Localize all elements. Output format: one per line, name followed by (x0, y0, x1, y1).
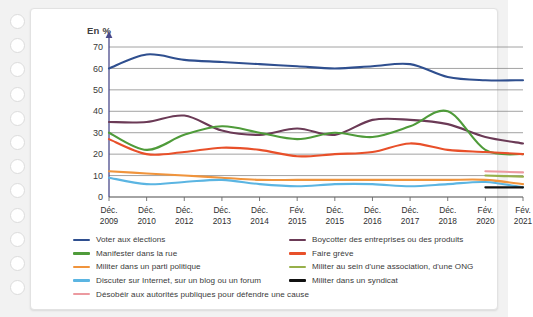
legend-column-left: Voter aux électionsManifester dans la ru… (73, 233, 288, 301)
legend-line-swatch (73, 279, 90, 282)
legend-item[interactable]: Militer dans un parti politique (73, 260, 288, 274)
x-axis-tick-label: Déc. (326, 205, 343, 215)
series-line (109, 115, 523, 143)
x-axis-tick-label: 2021 (514, 216, 533, 226)
x-axis-tick-label: 2017 (401, 216, 420, 226)
binder-hole-icon (10, 87, 25, 102)
y-axis-tick-label: 50 (93, 85, 103, 95)
legend-item[interactable]: Voter aux élections (73, 233, 288, 247)
x-axis-tick-label: 2014 (250, 216, 269, 226)
chart-card: En % 010203040506070Déc.2009Déc.2010Déc.… (30, 8, 498, 310)
legend-line-swatch (289, 239, 306, 242)
y-axis-tick-label: 40 (93, 106, 103, 116)
legend-line-swatch (289, 279, 306, 282)
legend-item[interactable]: Militer au sein d'une association, d'une… (289, 260, 529, 274)
x-axis-tick-label: 2015 (288, 216, 307, 226)
legend-item-label: Faire grève (312, 249, 354, 258)
legend-item-label: Militer dans un parti politique (96, 262, 201, 271)
legend-line-swatch (73, 252, 90, 255)
legend-item[interactable]: Boycotter des entreprises ou des produit… (289, 233, 529, 247)
binder-hole-icon (10, 208, 25, 223)
x-axis-tick-label: Fév. (515, 205, 531, 215)
series-line (485, 171, 523, 172)
x-axis-tick-label: 2012 (175, 216, 194, 226)
x-axis-tick-label: 2018 (438, 216, 457, 226)
x-axis-tick-label: 2010 (137, 216, 156, 226)
x-axis-tick-label: 2020 (476, 216, 495, 226)
series-line (109, 54, 523, 80)
y-axis-tick-label: 30 (93, 128, 103, 138)
legend-column-right: Boycotter des entreprises ou des produit… (289, 233, 529, 287)
x-axis-tick-label: Déc. (100, 205, 117, 215)
binder-hole-icon (10, 256, 25, 271)
legend-item[interactable]: Faire grève (289, 247, 529, 261)
binder-hole-icon (10, 111, 25, 126)
legend-item-label: Voter aux élections (96, 235, 165, 244)
y-axis-tick-label: 60 (93, 64, 103, 74)
legend-item-label: Militer au sein d'une association, d'une… (312, 262, 473, 271)
chart-legend: Voter aux électionsManifester dans la ru… (73, 233, 528, 309)
legend-line-swatch (289, 252, 306, 255)
x-axis-tick-label: Déc. (251, 205, 268, 215)
legend-item-label: Manifester dans la rue (96, 249, 177, 258)
binder-hole-icon (10, 38, 25, 53)
x-axis-tick-label: Déc. (138, 205, 155, 215)
x-axis-tick-label: 2015 (326, 216, 345, 226)
legend-item[interactable]: Désobéir aux autorités publiques pour dé… (73, 287, 288, 301)
binder-hole-icon (10, 280, 25, 295)
legend-item[interactable]: Militer dans un syndicat (289, 274, 529, 288)
x-axis-tick-label: Déc. (176, 205, 193, 215)
y-axis-tick-label: 0 (98, 192, 103, 202)
legend-item[interactable]: Manifester dans la rue (73, 247, 288, 261)
x-axis-tick-label: 2009 (100, 216, 119, 226)
binder-hole-icon (10, 232, 25, 247)
binder-hole-icon (10, 62, 25, 77)
x-axis-tick-label: Déc. (402, 205, 419, 215)
legend-line-swatch (289, 266, 306, 269)
y-axis-arrow-icon (106, 31, 113, 38)
legend-item-label: Désobéir aux autorités publiques pour dé… (96, 290, 309, 299)
legend-line-swatch (73, 266, 90, 269)
legend-line-swatch (73, 293, 90, 296)
legend-item-label: Boycotter des entreprises ou des produit… (312, 235, 463, 244)
binder-hole-icon (10, 159, 25, 174)
y-axis-tick-label: 70 (93, 42, 103, 52)
y-axis-tick-label: 20 (93, 149, 103, 159)
x-axis-tick-label: Déc. (364, 205, 381, 215)
x-axis-tick-label: Fév. (289, 205, 305, 215)
x-axis-tick-label: Déc. (213, 205, 230, 215)
x-axis-tick-label: 2013 (213, 216, 232, 226)
x-axis-tick-label: 2016 (363, 216, 382, 226)
binder-hole-icon (10, 135, 25, 150)
binder-hole-icon (10, 14, 25, 29)
legend-item-label: Militer dans un syndicat (312, 276, 398, 285)
line-chart: 010203040506070Déc.2009Déc.2010Déc.2012D… (71, 19, 533, 234)
x-axis-tick-label: Déc. (439, 205, 456, 215)
legend-line-swatch (73, 239, 90, 242)
binder-hole-icon (10, 183, 25, 198)
x-axis-tick-label: Fév. (478, 205, 494, 215)
legend-item-label: Discuter sur Internet, sur un blog ou un… (96, 276, 261, 285)
series-line (485, 176, 523, 177)
legend-item[interactable]: Discuter sur Internet, sur un blog ou un… (73, 274, 288, 288)
plot-area: En % 010203040506070Déc.2009Déc.2010Déc.… (71, 19, 533, 234)
y-axis-tick-label: 10 (93, 171, 103, 181)
